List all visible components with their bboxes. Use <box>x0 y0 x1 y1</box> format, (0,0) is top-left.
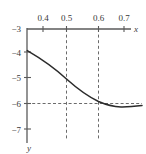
x-axis-label: x <box>133 24 138 34</box>
x-tick-label-06: 0.6 <box>93 13 105 23</box>
function-graph: 0.4 0.5 0.6 0.7 −3 −4 −5 −6 −7 x y <box>0 0 146 154</box>
x-tick-label-07: 0.7 <box>118 13 130 23</box>
curve-path <box>27 51 142 107</box>
y-tick-label-minus3: −3 <box>11 24 21 34</box>
x-tick-label-05: 0.5 <box>61 13 73 23</box>
y-tick-label-minus7: −7 <box>11 125 21 135</box>
y-tick-label-minus5: −5 <box>11 73 21 83</box>
y-tick-label-minus6: −6 <box>11 99 21 109</box>
y-axis-label: y <box>26 143 31 153</box>
figure-panel: 0.4 0.5 0.6 0.7 −3 −4 −5 −6 −7 x y <box>0 0 146 154</box>
y-tick-label-minus4: −4 <box>11 48 21 58</box>
x-tick-label-04: 0.4 <box>37 13 49 23</box>
